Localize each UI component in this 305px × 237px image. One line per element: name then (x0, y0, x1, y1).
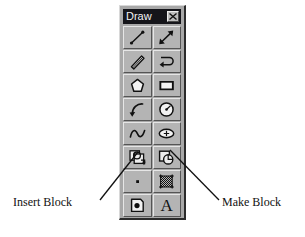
construction-line-button[interactable] (153, 26, 182, 49)
region-button[interactable] (123, 194, 152, 217)
rectangle-button[interactable] (153, 74, 182, 97)
spline-button[interactable] (123, 122, 152, 145)
annotation-label-make-block: Make Block (222, 196, 281, 209)
multiline-button[interactable] (123, 50, 152, 73)
toolbar-inner: Draw (123, 9, 181, 215)
ellipse-button[interactable] (153, 122, 182, 145)
multiline-icon (128, 53, 147, 70)
arc-button[interactable] (123, 98, 152, 121)
construction-line-icon (157, 29, 176, 46)
insert-block-icon (128, 149, 147, 166)
point-button[interactable] (123, 170, 152, 193)
hatch-button[interactable] (153, 170, 182, 193)
text-icon: A (161, 197, 173, 214)
make-block-icon (157, 149, 176, 166)
hatch-icon (157, 173, 176, 190)
line-button[interactable] (123, 26, 152, 49)
annotation-label-insert-block: Insert Block (13, 196, 72, 209)
circle-icon (157, 101, 176, 118)
insert-block-button[interactable] (123, 146, 152, 169)
region-icon (128, 197, 147, 214)
circle-button[interactable] (153, 98, 182, 121)
rectangle-icon (157, 77, 176, 94)
title-bar[interactable]: Draw (123, 9, 181, 24)
make-block-button[interactable] (153, 146, 182, 169)
polyline-icon (157, 53, 176, 70)
line-icon (128, 29, 147, 46)
screenshot-root: Draw (0, 0, 305, 237)
spline-icon (128, 125, 147, 142)
draw-toolbar-window[interactable]: Draw (119, 5, 186, 220)
ellipse-icon (157, 125, 176, 142)
tool-button-grid: A (123, 26, 181, 217)
close-icon (168, 12, 178, 21)
close-button[interactable] (167, 11, 179, 22)
point-icon (128, 173, 147, 190)
multiline-text-button[interactable]: A (153, 194, 182, 217)
polyline-button[interactable] (153, 50, 182, 73)
window-title: Draw (126, 11, 152, 22)
arc-icon (128, 101, 147, 118)
polygon-icon (128, 77, 147, 94)
polygon-button[interactable] (123, 74, 152, 97)
